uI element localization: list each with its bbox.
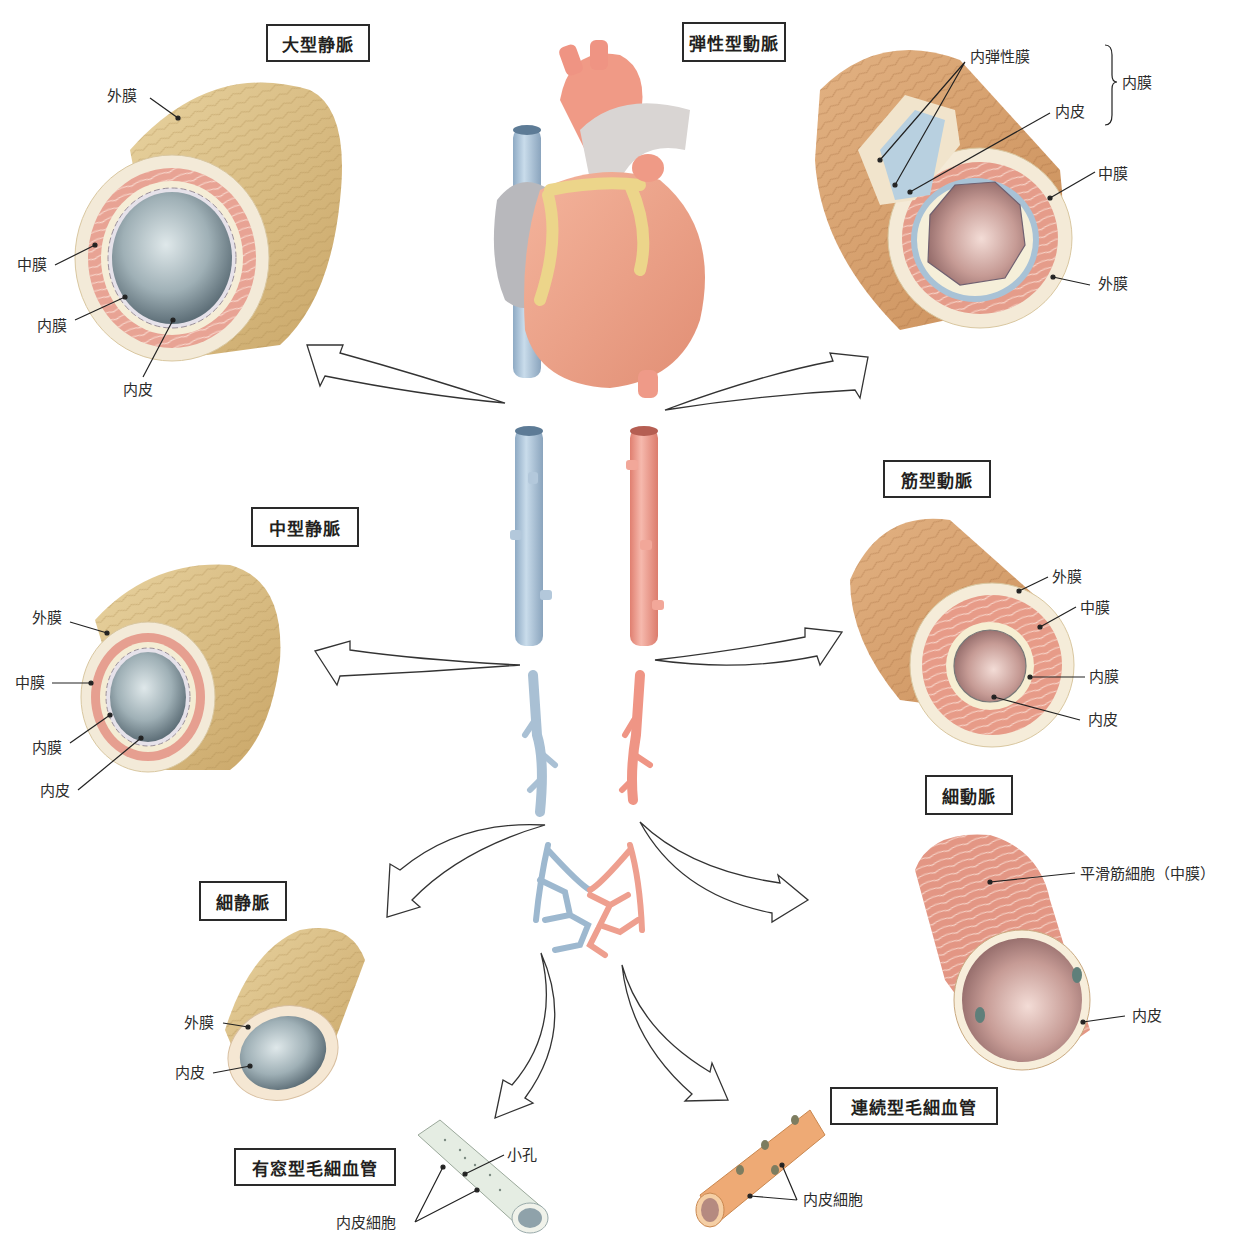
label-medium-vein-media: 中膜	[15, 676, 45, 691]
label-fenestrated-endothelial-cell: 内皮細胞	[336, 1216, 396, 1231]
label-large-vein-endothelium: 内皮	[123, 383, 153, 398]
label-arteriole-smooth-muscle: 平滑筋細胞（中膜）	[1080, 867, 1215, 882]
arteriole-illustration	[915, 834, 1090, 1070]
label-medium-vein-adventitia: 外膜	[32, 611, 62, 626]
label-muscular-artery-intima: 内膜	[1089, 670, 1119, 685]
label-large-vein-media: 中膜	[17, 258, 47, 273]
label-elastic-artery-endothelium: 内皮	[1055, 105, 1085, 120]
arrow-to-venule	[387, 825, 545, 917]
venule-illustration	[215, 928, 365, 1115]
arrow-to-muscular-artery	[655, 628, 842, 665]
label-arteriole-endothelium: 内皮	[1132, 1009, 1162, 1024]
title-large-vein: 大型静脈	[266, 24, 370, 62]
label-elastic-artery-internal-elastic-lamina: 内弾性膜	[970, 50, 1030, 65]
arrow-to-elastic-artery	[665, 353, 868, 410]
elastic-artery-illustration	[815, 50, 1072, 330]
label-elastic-artery-adventitia: 外膜	[1098, 277, 1128, 292]
heart-illustration	[494, 40, 705, 398]
label-elastic-artery-intima: 内膜	[1122, 76, 1152, 91]
label-muscular-artery-adventitia: 外膜	[1052, 570, 1082, 585]
medium-vein-illustration	[81, 565, 280, 772]
title-continuous-capillary: 連続型毛細血管	[830, 1087, 998, 1125]
title-medium-vein: 中型静脈	[251, 507, 359, 547]
label-large-vein-adventitia: 外膜	[107, 89, 137, 104]
title-elastic-artery: 弾性型動脈	[682, 22, 786, 62]
title-muscular-artery: 筋型動脈	[883, 460, 991, 498]
label-venule-adventitia: 外膜	[184, 1016, 214, 1031]
label-medium-vein-endothelium: 内皮	[40, 784, 70, 799]
title-fenestrated-capillary: 有窓型毛細血管	[234, 1148, 396, 1186]
label-large-vein-intima: 内膜	[37, 319, 67, 334]
muscular-artery-illustration	[850, 519, 1074, 747]
arrow-to-arteriole	[640, 822, 808, 922]
capillary-bed-illustration	[536, 845, 642, 955]
label-muscular-artery-media: 中膜	[1080, 601, 1110, 616]
continuous-capillary-illustration	[696, 1110, 825, 1227]
large-vein-illustration	[75, 83, 342, 362]
medium-vessels-illustration	[510, 426, 664, 812]
arrow-to-fenestrated	[495, 953, 555, 1118]
label-fenestrated-pore: 小孔	[507, 1148, 537, 1163]
title-arteriole: 細動脈	[925, 775, 1013, 815]
label-continuous-endothelial-cell: 内皮細胞	[803, 1193, 863, 1208]
arrow-to-continuous	[622, 965, 728, 1101]
arrow-to-medium-vein	[315, 641, 520, 685]
flow-arrows	[307, 345, 868, 1118]
label-muscular-artery-endothelium: 内皮	[1088, 713, 1118, 728]
title-venule: 細静脈	[199, 881, 287, 921]
arrow-to-large-vein	[307, 345, 505, 403]
label-elastic-artery-media: 中膜	[1098, 167, 1128, 182]
label-medium-vein-intima: 内膜	[32, 741, 62, 756]
label-venule-endothelium: 内皮	[175, 1066, 205, 1081]
